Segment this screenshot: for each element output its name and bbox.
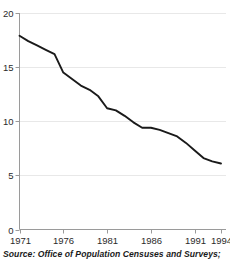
x-axis-tick-label: 1994 bbox=[211, 235, 230, 246]
y-axis-tick-marks bbox=[16, 14, 20, 231]
data-series-line bbox=[20, 36, 222, 164]
line-chart-plot: 05101520 197119761981198619911994 bbox=[0, 0, 230, 264]
y-axis-tick-label: 15 bbox=[3, 62, 14, 73]
x-axis-tick-label: 1981 bbox=[97, 235, 118, 246]
x-axis-tick-label: 1976 bbox=[53, 235, 74, 246]
chart-figure: 05101520 197119761981198619911994 Source… bbox=[0, 0, 230, 264]
y-axis-tick-label: 5 bbox=[8, 170, 13, 181]
x-axis-tick-label: 1971 bbox=[10, 235, 31, 246]
x-axis-tick-label: 1986 bbox=[141, 235, 162, 246]
y-axis-tick-label: 10 bbox=[3, 116, 14, 127]
y-axis-tick-labels: 05101520 bbox=[3, 8, 14, 236]
x-axis-tick-marks bbox=[21, 230, 222, 234]
y-axis-tick-label: 20 bbox=[3, 8, 14, 19]
x-axis-tick-label: 1991 bbox=[185, 235, 206, 246]
source-note: Source: Office of Population Censuses an… bbox=[3, 249, 230, 259]
x-axis-tick-labels: 197119761981198619911994 bbox=[10, 235, 230, 246]
